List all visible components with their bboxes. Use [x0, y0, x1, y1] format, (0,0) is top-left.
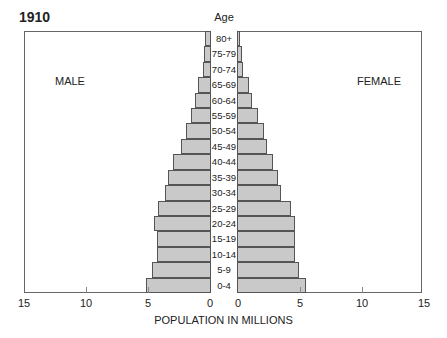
female-bar — [238, 31, 240, 46]
male-bar — [146, 278, 210, 293]
female-bar — [238, 278, 306, 293]
female-bar — [238, 201, 291, 216]
male-bar — [165, 185, 210, 200]
female-bar — [238, 62, 243, 77]
x-tick-label: 15 — [12, 297, 36, 309]
female-bar — [238, 262, 299, 277]
male-bar — [198, 77, 210, 92]
male-bar — [168, 170, 210, 185]
x-axis-label: POPULATION IN MILLIONS — [0, 314, 447, 326]
male-bar — [181, 139, 210, 154]
x-tick-label: 10 — [74, 297, 98, 309]
x-tick-label: 0 — [226, 297, 250, 309]
x-tick-mark — [300, 287, 301, 293]
male-bar — [203, 62, 210, 77]
female-bar — [238, 77, 249, 92]
x-tick-mark — [148, 287, 149, 293]
female-bar — [238, 139, 267, 154]
female-bar — [238, 216, 295, 231]
x-tick-label: 0 — [198, 297, 222, 309]
x-tick-mark — [362, 287, 363, 293]
x-tick-label: 10 — [350, 297, 374, 309]
female-bar — [238, 154, 273, 169]
female-bar — [238, 231, 295, 246]
male-bar — [152, 262, 210, 277]
male-bar — [154, 216, 210, 231]
female-bar — [238, 46, 242, 61]
male-bar — [157, 231, 210, 246]
female-bar — [238, 170, 278, 185]
male-bar — [173, 154, 210, 169]
female-bar — [238, 108, 258, 123]
chart-title-year: 1910 — [19, 9, 50, 25]
female-bar — [238, 185, 281, 200]
female-bar — [238, 123, 264, 138]
male-bar — [158, 201, 210, 216]
x-tick-label: 15 — [412, 297, 436, 309]
x-tick-mark — [86, 287, 87, 293]
age-axis-title: Age — [201, 11, 247, 23]
age-label-column — [210, 31, 238, 293]
male-bar — [186, 123, 210, 138]
female-bar — [238, 93, 252, 108]
male-bar — [195, 93, 210, 108]
male-bar — [157, 247, 210, 262]
male-bar — [191, 108, 210, 123]
female-bar — [238, 247, 295, 262]
x-tick-label: 5 — [288, 297, 312, 309]
x-tick-label: 5 — [136, 297, 160, 309]
